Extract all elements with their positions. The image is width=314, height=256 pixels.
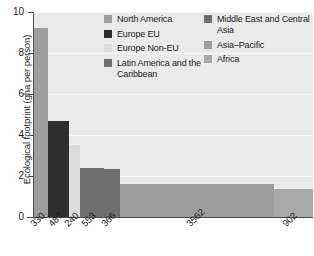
legend-swatch-icon [104, 44, 112, 52]
legend-item: Asia–Pacific [204, 40, 310, 51]
legend-item: Europe Non-EU [104, 43, 202, 54]
y-axis-tick-label: 0 [0, 211, 24, 222]
bar [69, 145, 79, 217]
y-axis-line [33, 12, 34, 218]
y-axis-tick [28, 12, 34, 13]
y-axis-tick-label: 2 [0, 170, 24, 181]
bar [80, 168, 104, 217]
legend-swatch-icon [104, 30, 112, 38]
bar [34, 28, 48, 217]
legend-label: North America [117, 14, 172, 25]
ecological-footprint-chart: Ecological footprint (gha per person) 02… [0, 0, 314, 256]
gridline [34, 94, 313, 95]
legend-swatch-icon [204, 15, 212, 23]
bar [104, 169, 120, 217]
legend-swatch-icon [104, 59, 112, 67]
legend-swatch-icon [204, 41, 212, 49]
y-axis-tick-label: 4 [0, 129, 24, 140]
legend-swatch-icon [104, 15, 112, 23]
gridline [34, 12, 313, 13]
legend-item: Latin America and the Caribbean [104, 58, 202, 80]
y-axis-tick [28, 135, 34, 136]
legend-label: Africa [217, 54, 239, 65]
y-axis-tick-label: 10 [0, 6, 24, 17]
legend-column-left: North AmericaEurope EUEurope Non-EULatin… [104, 14, 202, 83]
legend-label: Asia–Pacific [217, 40, 264, 51]
legend-label: Europe EU [117, 29, 160, 40]
gridline [34, 135, 313, 136]
bar [48, 121, 69, 217]
legend-label: Europe Non-EU [117, 43, 179, 54]
legend-label: Latin America and the Caribbean [117, 58, 202, 80]
legend-item: North America [104, 14, 202, 25]
legend-item: Europe EU [104, 29, 202, 40]
y-axis-tick-label: 6 [0, 88, 24, 99]
y-axis-tick [28, 53, 34, 54]
y-axis-tick [28, 94, 34, 95]
y-axis-tick [28, 176, 34, 177]
legend-item: Africa [204, 54, 310, 65]
legend-column-right: Middle East and Central AsiaAsia–Pacific… [204, 14, 310, 69]
legend-label: Middle East and Central Asia [217, 14, 310, 36]
y-axis-tick-label: 8 [0, 47, 24, 58]
legend-item: Middle East and Central Asia [204, 14, 310, 36]
legend-swatch-icon [204, 55, 212, 63]
